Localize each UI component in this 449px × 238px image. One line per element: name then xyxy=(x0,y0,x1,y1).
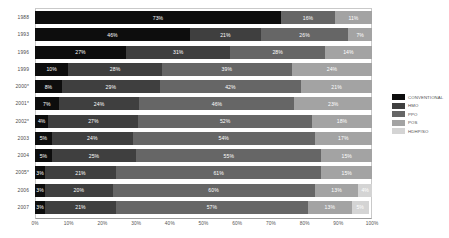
bar-segment: 14% xyxy=(325,46,372,59)
legend-item[interactable]: HDHP/SO xyxy=(392,128,448,134)
legend-label: POS xyxy=(408,120,417,125)
bar-segment: 7% xyxy=(348,28,372,41)
bar-segment: 26% xyxy=(261,28,349,41)
legend-swatch-icon xyxy=(392,128,405,134)
bar-segment: 4% xyxy=(358,184,371,197)
legend-swatch-icon xyxy=(392,111,405,117)
x-axis-tick-label: 10% xyxy=(64,221,74,226)
legend-swatch-icon xyxy=(392,120,405,126)
table-row: 3%20%60%13%4% xyxy=(35,184,372,197)
bar-segment: 57% xyxy=(116,201,308,214)
y-axis-label: 1996 xyxy=(0,46,33,59)
legend-item[interactable]: CONVENTIONAL xyxy=(392,94,448,100)
x-axis-tick-label: 80% xyxy=(300,221,310,226)
x-axis-tick-label: 90% xyxy=(333,221,343,226)
chart-legend: CONVENTIONALHMOPPOPOSHDHP/SO xyxy=(392,94,448,134)
x-axis-tick-label: 60% xyxy=(232,221,242,226)
bar-segment: 5% xyxy=(35,132,52,145)
bar-segment: 7% xyxy=(35,97,59,110)
bar-segment: 29% xyxy=(62,80,160,93)
x-axis-tick-label: 20% xyxy=(97,221,107,226)
y-axis-label: 2001* xyxy=(0,97,33,110)
y-axis-label: 1988 xyxy=(0,11,33,24)
table-row: 10%28%39%24% xyxy=(35,63,372,76)
y-axis-label: 2002* xyxy=(0,115,33,128)
y-axis-label: 1999 xyxy=(0,63,33,76)
table-row: 8%29%42%21% xyxy=(35,80,372,93)
bar-segment: 8% xyxy=(35,80,62,93)
table-row: 5%24%54%17% xyxy=(35,132,372,145)
legend-label: PPO xyxy=(408,112,417,117)
x-axis-tick-label: 40% xyxy=(165,221,175,226)
bar-segment: 21% xyxy=(45,201,116,214)
legend-label: HDHP/SO xyxy=(408,129,428,134)
bar-segment: 3% xyxy=(35,184,45,197)
bar-segment: 16% xyxy=(281,11,335,24)
legend-item[interactable]: HMO xyxy=(392,103,448,109)
y-axis-label: 2000* xyxy=(0,80,33,93)
bar-segment: 20% xyxy=(45,184,112,197)
table-row: 5%25%55%15% xyxy=(35,149,372,162)
bar-segment: 23% xyxy=(294,97,372,110)
bar-segment: 24% xyxy=(292,63,372,76)
bar-segment: 10% xyxy=(35,63,68,76)
stacked-bars-container: 73%16%11%46%21%26%7%27%31%28%14%10%28%39… xyxy=(35,9,372,217)
bar-segment: 46% xyxy=(35,28,190,41)
x-axis-tick-label: 70% xyxy=(266,221,276,226)
table-row: 3%21%61%15% xyxy=(35,166,372,179)
bar-segment: 42% xyxy=(160,80,302,93)
bar-segment: 46% xyxy=(139,97,294,110)
table-row: 46%21%26%7% xyxy=(35,28,372,41)
table-row: 7%24%46%23% xyxy=(35,97,372,110)
table-row: 4%27%52%18% xyxy=(35,115,372,128)
bar-segment: 24% xyxy=(52,132,133,145)
table-row: 27%31%28%14% xyxy=(35,46,372,59)
bar-segment: 54% xyxy=(133,132,315,145)
chart-root: 19881993199619992000*2001*2002*200320042… xyxy=(0,0,449,238)
bar-segment: 21% xyxy=(45,166,116,179)
bar-segment: 13% xyxy=(315,184,359,197)
bar-segment: 73% xyxy=(35,11,281,24)
x-axis-tick-labels: 0%10%20%30%40%50%60%70%80%90%100% xyxy=(35,221,372,231)
bar-segment: 27% xyxy=(48,115,138,128)
x-axis-tick-label: 0% xyxy=(31,221,38,226)
bar-segment: 21% xyxy=(301,80,372,93)
bar-segment: 5% xyxy=(35,149,52,162)
bar-segment: 28% xyxy=(230,46,324,59)
legend-item[interactable]: PPO xyxy=(392,111,448,117)
y-axis-category-labels: 19881993199619992000*2001*2002*200320042… xyxy=(0,9,33,217)
bar-segment: 3% xyxy=(35,201,45,214)
bar-segment: 55% xyxy=(136,149,321,162)
y-axis-label: 2004 xyxy=(0,149,33,162)
x-axis-tick-label: 30% xyxy=(131,221,141,226)
y-axis-label: 2005* xyxy=(0,166,33,179)
bar-segment: 39% xyxy=(162,63,292,76)
bar-segment: 4% xyxy=(35,115,48,128)
bar-segment: 61% xyxy=(116,166,322,179)
legend-swatch-icon xyxy=(392,94,405,100)
bar-segment: 18% xyxy=(312,115,372,128)
legend-swatch-icon xyxy=(392,103,405,109)
bar-segment: 3% xyxy=(35,166,45,179)
bar-segment: 52% xyxy=(138,115,312,128)
y-axis-label: 2007 xyxy=(0,201,33,214)
bar-segment: 25% xyxy=(52,149,136,162)
table-row: 3%21%57%13%5% xyxy=(35,201,372,214)
table-row: 73%16%11% xyxy=(35,11,372,24)
bar-segment: 27% xyxy=(35,46,126,59)
bar-segment: 13% xyxy=(308,201,352,214)
x-axis-tick-label: 100% xyxy=(366,221,379,226)
legend-item[interactable]: POS xyxy=(392,120,448,126)
x-axis-tick-label: 50% xyxy=(199,221,209,226)
bar-segment: 21% xyxy=(190,28,261,41)
bar-segment: 15% xyxy=(321,149,372,162)
bar-segment: 17% xyxy=(315,132,372,145)
bar-segment: 11% xyxy=(335,11,372,24)
bar-segment: 5% xyxy=(352,201,369,214)
bar-segment: 24% xyxy=(59,97,140,110)
bar-segment: 60% xyxy=(113,184,315,197)
legend-label: HMO xyxy=(408,103,418,108)
y-axis-label: 2003 xyxy=(0,132,33,145)
bar-segment: 31% xyxy=(126,46,230,59)
y-axis-label: 2006 xyxy=(0,184,33,197)
